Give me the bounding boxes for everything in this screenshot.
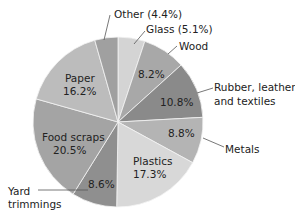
label-food-pct: 20.5% [53,144,86,156]
leader-wood [168,46,177,54]
leader-other [104,15,110,40]
label-rubber-line2: and textiles [214,95,276,107]
label-other: Other (4.4%) [114,8,182,20]
label-food-name: Food scraps [42,131,105,143]
leader-rubber [197,88,213,93]
label-rubber-line1: Rubber, leather, [214,81,295,93]
label-yard-line1: Yard [8,185,30,197]
label-plastics-pct: 17.3% [133,168,166,180]
label-plastics-name: Plastics [133,155,172,167]
pie-slices [33,37,203,207]
label-glass: Glass (5.1%) [146,23,213,35]
label-rubber-pct: 10.8% [160,96,193,108]
label-wood: Wood [179,40,208,52]
label-paper-name: Paper [65,72,95,84]
label-yard-pct: 8.6% [88,178,115,190]
label-yard-line2: trimmings [8,198,62,210]
label-paper-pct: 16.2% [63,85,96,97]
label-metals-pct: 8.8% [168,127,195,139]
leader-metals [203,138,224,147]
label-wood-pct: 8.2% [138,68,165,80]
label-metals: Metals [225,143,259,155]
